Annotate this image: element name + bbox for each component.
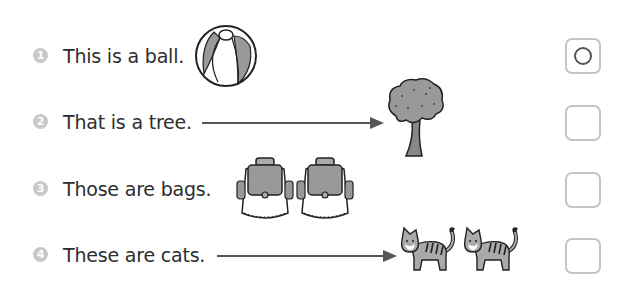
bag-icon [296, 157, 354, 223]
sentence-2: That is a tree. [63, 110, 192, 134]
ball-icon [194, 24, 258, 88]
answer-box-2[interactable] [565, 105, 601, 141]
item-number-1: 1 [33, 48, 48, 63]
answer-box-4[interactable] [565, 238, 601, 274]
arrow-icon [202, 116, 386, 130]
cat-icon [400, 226, 460, 274]
arrow-icon [217, 249, 401, 263]
bag-icon [236, 157, 294, 223]
item-number-4: 4 [33, 247, 48, 262]
sentence-3: Those are bags. [63, 177, 211, 201]
cat-icon [463, 226, 523, 274]
answer-box-1[interactable] [565, 38, 601, 74]
sentence-1: This is a ball. [63, 44, 184, 68]
item-number-2: 2 [33, 114, 48, 129]
sentence-4: These are cats. [63, 243, 205, 267]
tree-icon [384, 76, 446, 160]
circle-mark-icon [574, 47, 592, 65]
answer-box-3[interactable] [565, 172, 601, 208]
item-number-3: 3 [33, 181, 48, 196]
